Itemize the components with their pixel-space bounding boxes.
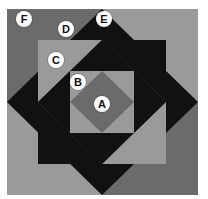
label-d: D — [58, 21, 74, 37]
label-f: F — [16, 11, 32, 27]
label-a: A — [94, 96, 110, 112]
label-b: B — [70, 74, 86, 90]
label-c: C — [48, 52, 64, 68]
label-e: E — [96, 11, 112, 27]
